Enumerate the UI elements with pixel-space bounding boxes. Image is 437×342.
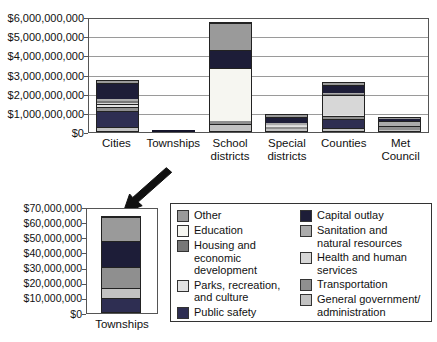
- bar-segment-general-government-administration: [323, 128, 364, 131]
- x-axis-label-townships: Townships: [145, 137, 202, 163]
- main-y-tick-label: $2,000,000,000: [0, 89, 84, 101]
- legend-swatch-icon: [300, 210, 312, 222]
- main-gridline: [89, 95, 428, 96]
- detail-y-tick-label: $50,000,000: [4, 233, 82, 244]
- townships-detail-chart: $70,000,000$60,000,000$50,000,000$40,000…: [6, 200, 168, 340]
- main-y-tick-label: $4,000,000,000: [0, 50, 84, 62]
- bar-townships-detail: [101, 216, 141, 313]
- legend-swatch-icon: [300, 279, 312, 291]
- townships-detail-x-label: Townships: [86, 318, 158, 330]
- legend-label: Sanitation and natural resources: [317, 224, 402, 249]
- legend-item-health-and-human-services: Health and human services: [300, 251, 427, 276]
- main-gridline: [89, 76, 428, 77]
- detail-y-tick-label: $30,000,000: [4, 263, 82, 274]
- local-government-spending-figure: $6,000,000,000$5,000,000,000$4,000,000,0…: [0, 0, 437, 342]
- legend-label: General government/ administration: [317, 293, 420, 318]
- bar-segment-general-government-administration: [102, 288, 140, 299]
- legend-label: Other: [194, 209, 222, 222]
- detail-y-tick-label: $20,000,000: [4, 278, 82, 289]
- legend-item-housing-and-economic-development: Housing and economic development: [177, 239, 296, 277]
- legend-swatch-icon: [177, 280, 189, 292]
- legend-item-capital-outlay: Capital outlay: [300, 209, 427, 222]
- bar-segment-capital-outlay: [102, 241, 140, 267]
- bar-cities: [96, 80, 139, 132]
- legend-swatch-icon: [177, 225, 189, 237]
- detail-y-tick-label: $70,000,000: [4, 203, 82, 214]
- bar-segment-transportation: [102, 267, 140, 288]
- bar-segment-general-government-administration: [266, 129, 307, 131]
- legend-item-other: Other: [177, 209, 296, 222]
- bar-segment-education: [210, 68, 251, 122]
- bar-segment-health-and-human-services: [323, 95, 364, 115]
- legend-item-education: Education: [177, 224, 296, 237]
- main-gridline: [89, 114, 428, 115]
- legend-swatch-icon: [177, 240, 189, 252]
- detail-y-tick-label: $60,000,000: [4, 218, 82, 229]
- bar-segment-general-government-administration: [97, 127, 138, 131]
- legend-column-0: OtherEducationHousing and economic devel…: [177, 209, 296, 317]
- legend-column-1: Capital outlaySanitation and natural res…: [300, 209, 427, 317]
- legend-item-public-safety: Public safety: [177, 306, 296, 319]
- bar-met-council: [378, 117, 421, 132]
- bar-segment-capital-outlay: [97, 83, 138, 99]
- legend-swatch-icon: [177, 307, 189, 319]
- detail-y-tick-label: $40,000,000: [4, 248, 82, 259]
- legend-label: Public safety: [194, 306, 256, 319]
- bar-segment-public-safety: [102, 298, 140, 312]
- bar-counties: [322, 82, 365, 132]
- legend-label: Capital outlay: [317, 209, 384, 222]
- bar-segment-other: [210, 23, 251, 50]
- main-chart: $6,000,000,000$5,000,000,000$4,000,000,0…: [0, 0, 437, 172]
- legend-label: Health and human services: [317, 251, 407, 276]
- legend-item-general-government-administration: General government/ administration: [300, 293, 427, 318]
- legend-swatch-icon: [300, 225, 312, 237]
- bar-townships: [152, 130, 195, 133]
- detail-y-tick-mark: [82, 314, 86, 315]
- legend-label: Education: [194, 224, 243, 237]
- main-y-tick-label: $1,000,000,000: [0, 108, 84, 120]
- legend-swatch-icon: [177, 210, 189, 222]
- main-y-tick-label: $6,000,000,000: [0, 12, 84, 24]
- x-axis-label-counties: Counties: [315, 137, 372, 163]
- bar-segment-capital-outlay: [210, 50, 251, 68]
- legend-label: Parks, recreation, and culture: [194, 279, 280, 304]
- bar-segment-capital-outlay: [266, 117, 307, 124]
- main-y-tick-label: $0: [0, 127, 84, 139]
- legend-item-transportation: Transportation: [300, 278, 427, 291]
- legend-item-sanitation-and-natural-resources: Sanitation and natural resources: [300, 224, 427, 249]
- x-axis-label-school-districts: School districts: [202, 137, 259, 163]
- bar-segment-capital-outlay: [323, 85, 364, 93]
- x-axis-label-cities: Cities: [88, 137, 145, 163]
- townships-detail-plot: [86, 208, 158, 314]
- bar-school-districts: [209, 22, 252, 132]
- main-chart-x-axis: CitiesTownshipsSchool districtsSpecial d…: [88, 137, 429, 163]
- detail-y-tick-label: $10,000,000: [4, 293, 82, 304]
- legend: OtherEducationHousing and economic devel…: [170, 203, 432, 322]
- detail-y-tick-label: $0: [4, 309, 82, 320]
- x-axis-label-met-council: Met Council: [372, 137, 429, 163]
- legend-label: Housing and economic development: [194, 239, 296, 277]
- bar-segment-other: [102, 217, 140, 241]
- main-chart-plot: [88, 18, 429, 133]
- x-axis-label-special-districts: Special districts: [258, 137, 315, 163]
- bar-segment-public-safety: [97, 111, 138, 127]
- bar-segment-general-government-administration: [210, 124, 251, 131]
- legend-label: Transportation: [317, 278, 388, 291]
- main-y-tick-mark: [84, 133, 88, 134]
- main-y-tick-label: $5,000,000,000: [0, 31, 84, 43]
- main-gridline: [89, 56, 428, 57]
- main-y-tick-label: $3,000,000,000: [0, 70, 84, 82]
- bar-segment-public-safety: [323, 119, 364, 129]
- legend-swatch-icon: [300, 252, 312, 264]
- main-gridline: [89, 37, 428, 38]
- bar-special-districts: [265, 114, 308, 132]
- bar-segment-general-government-administration: [379, 130, 420, 131]
- legend-swatch-icon: [300, 294, 312, 306]
- legend-item-parks-recreation-and-culture: Parks, recreation, and culture: [177, 279, 296, 304]
